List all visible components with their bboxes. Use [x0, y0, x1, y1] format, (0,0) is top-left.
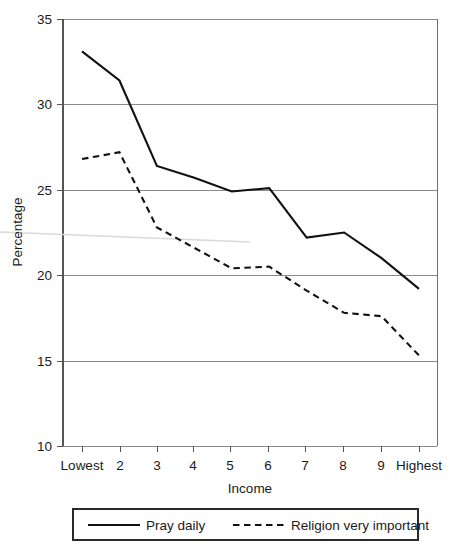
- x-tick-label-3: 3: [153, 458, 161, 473]
- x-tick-label-8: 8: [339, 458, 347, 473]
- legend-label-religion-very-important: Religion very important: [291, 518, 429, 533]
- x-tick-label-highest: Highest: [396, 458, 442, 473]
- line-chart: 35 30 25 20 15 10 Lowest 2 3 4 5: [0, 0, 453, 546]
- chart-legend: Pray daily Religion very important: [73, 509, 429, 540]
- x-tick-label-2: 2: [116, 458, 124, 473]
- plot-area-background: [63, 19, 437, 446]
- y-axis-title: Percentage: [10, 197, 25, 266]
- x-axis-title: Income: [228, 481, 272, 496]
- y-tick-marks: [57, 19, 63, 446]
- y-tick-label-35: 35: [37, 12, 52, 27]
- x-tick-label-6: 6: [264, 458, 272, 473]
- y-tick-label-25: 25: [37, 183, 52, 198]
- y-tick-label-20: 20: [37, 268, 52, 283]
- x-tick-label-lowest: Lowest: [61, 458, 104, 473]
- x-tick-label-9: 9: [377, 458, 385, 473]
- x-tick-label-7: 7: [301, 458, 309, 473]
- x-tick-marks: [82, 446, 419, 452]
- chart-figure: 35 30 25 20 15 10 Lowest 2 3 4 5: [0, 0, 453, 546]
- legend-label-pray-daily: Pray daily: [146, 518, 206, 533]
- y-tick-label-10: 10: [37, 439, 52, 454]
- y-tick-label-30: 30: [37, 97, 52, 112]
- y-tick-label-15: 15: [37, 354, 52, 369]
- x-tick-label-5: 5: [226, 458, 234, 473]
- x-tick-label-4: 4: [189, 458, 197, 473]
- x-tick-labels: Lowest 2 3 4 5 6 7 8 9 Highest: [61, 458, 443, 473]
